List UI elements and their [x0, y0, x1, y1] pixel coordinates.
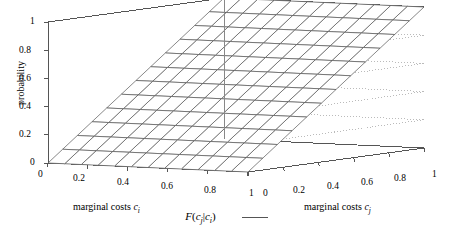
z-tick-0: 0: [30, 158, 35, 168]
x-tick-5: 1: [249, 189, 254, 199]
plot-canvas: [0, 0, 453, 240]
y-tick-1: 0.2: [293, 186, 305, 196]
x-tick-4: 0.8: [204, 186, 216, 196]
y-tickmark: [354, 158, 355, 162]
z-axis-title: probability: [16, 43, 26, 123]
legend-entry-label: F(cj|ci): [185, 210, 216, 225]
y-tickmark: [248, 172, 249, 176]
legend-cj: cj: [196, 210, 203, 222]
legend: F(cj|ci): [0, 210, 453, 225]
x-tick-0: 0: [38, 170, 43, 180]
x-tick-3: 0.6: [161, 182, 173, 192]
x-tickmark: [87, 165, 88, 169]
y-tickmark: [283, 167, 284, 171]
y-tick-0: 0: [263, 189, 268, 199]
legend-f: F: [185, 210, 192, 222]
x-tickmark: [207, 170, 208, 174]
x-tickmark: [47, 163, 48, 167]
x-tickmark: [127, 167, 128, 171]
y-tickmark: [424, 148, 425, 152]
y-tick-2: 0.4: [327, 182, 339, 192]
legend-paren-close: ): [212, 210, 216, 222]
x-tick-2: 0.4: [117, 178, 129, 188]
top-edge-left: [48, 0, 224, 22]
legend-line-swatch: [242, 217, 268, 218]
surface-plot-figure: 0 0.2 0.4 0.6 0.8 1 probability 0 0.2 0.…: [0, 0, 453, 240]
y-tick-3: 0.6: [361, 178, 373, 188]
y-tickmark: [389, 153, 390, 157]
y-tick-5: 1: [432, 170, 437, 180]
x-tick-1: 0.2: [73, 174, 85, 184]
z-tick-1: 0.2: [19, 130, 31, 140]
z-tick-5: 1: [30, 17, 35, 27]
x-tickmark: [167, 168, 168, 172]
y-tickmark: [318, 162, 319, 166]
y-tick-4: 0.8: [394, 174, 406, 184]
